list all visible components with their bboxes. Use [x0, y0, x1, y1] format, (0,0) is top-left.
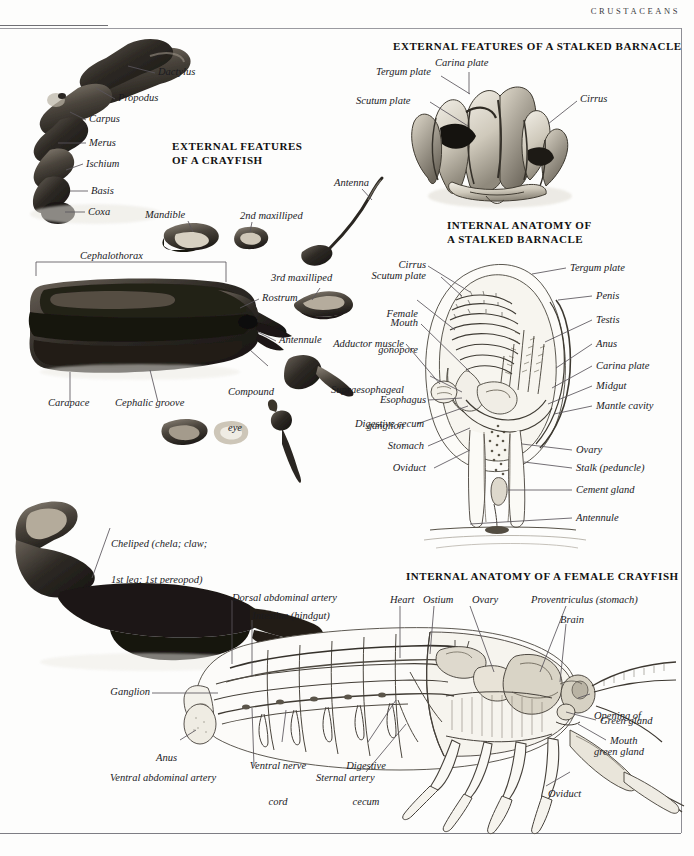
label-cephalothorax: Cephalothorax: [80, 250, 143, 262]
label-bi-stomach: Stomach: [350, 440, 424, 452]
label-ci-ventral-nerve-cord-line1: Ventral nerve: [243, 760, 313, 772]
label-dactylus: Dactylus: [158, 66, 195, 78]
label-merus: Merus: [89, 137, 116, 149]
label-ci-green-gland: Green gland: [600, 715, 652, 727]
label-bi-cement-gland: Cement gland: [576, 484, 635, 496]
label-ci-ventral-nerve-cord-line2: cord: [243, 796, 313, 808]
label-compound-eye-line2: eye: [228, 422, 274, 434]
label-ci-digestive-cecum: Digestive cecum: [334, 736, 398, 832]
label-cephalic-groove: Cephalic groove: [115, 397, 184, 409]
label-3rd-maxilliped: 3rd maxilliped: [271, 272, 332, 284]
label-bi-esophagus: Esophagus: [338, 394, 426, 406]
label-basis: Basis: [91, 185, 114, 197]
label-barnacle-scutum-plate: Scutum plate: [356, 95, 411, 107]
label-coxa: Coxa: [88, 206, 110, 218]
label-bi-digestive-cecum: Digestive cecum: [320, 418, 424, 430]
label-ci-opening-green-gland: Opening of green gland: [594, 686, 644, 782]
label-ci-ovary: Ovary: [472, 594, 498, 606]
label-ci-heart: Heart: [390, 594, 415, 606]
label-ischium: Ischium: [86, 158, 119, 170]
label-ci-opening-green-gland-line2: green gland: [594, 746, 644, 758]
label-bi-anus: Anus: [596, 338, 617, 350]
label-ci-anus: Anus: [156, 752, 177, 764]
label-bi-testis: Testis: [596, 314, 620, 326]
label-ci-ventral-abdominal-artery: Ventral abdominal artery: [110, 772, 216, 784]
label-bi-mantle-cavity: Mantle cavity: [596, 400, 653, 412]
label-bi-mouth: Mouth: [358, 317, 418, 329]
label-compound-eye: Compound eye: [228, 362, 274, 458]
label-bi-oviduct: Oviduct: [360, 462, 426, 474]
label-ci-ganglion: Ganglion: [92, 686, 150, 698]
label-bi-penis: Penis: [596, 290, 619, 302]
label-2nd-maxilliped: 2nd maxilliped: [240, 210, 303, 222]
label-ci-ostium: Ostium: [423, 594, 453, 606]
label-carpus: Carpus: [89, 113, 120, 125]
label-bi-stalk-peduncle: Stalk (peduncle): [576, 462, 645, 474]
label-antenna: Antenna: [334, 177, 369, 189]
label-ci-digestive-cecum-line1: Digestive: [334, 760, 398, 772]
label-bi-ovary: Ovary: [576, 444, 602, 456]
label-barnacle-cirrus: Cirrus: [580, 93, 607, 105]
label-mandible: Mandible: [145, 209, 185, 221]
label-ci-proventriculus: Proventriculus (stomach): [531, 594, 638, 606]
label-barnacle-carina-plate: Carina plate: [435, 57, 488, 69]
label-propodus: Propodus: [118, 92, 158, 104]
label-compound-eye-line1: Compound: [228, 386, 274, 398]
label-ci-intestine: Intestine (hindgut): [252, 610, 330, 622]
label-bi-scutum-plate: Scutum plate: [344, 270, 426, 282]
page-canvas: CRUSTACEANS: [0, 0, 694, 856]
label-ci-brain: Brain: [560, 614, 584, 626]
label-barnacle-tergum-plate: Tergum plate: [376, 66, 431, 78]
label-rostrum: Rostrum: [262, 292, 298, 304]
label-ci-digestive-cecum-line2: cecum: [334, 796, 398, 808]
label-ci-sternal-artery: Sternal artery: [316, 772, 375, 784]
label-bi-tergum-plate: Tergum plate: [570, 262, 625, 274]
label-ci-mouth: Mouth: [610, 735, 637, 747]
label-ci-ventral-nerve-cord: Ventral nerve cord: [243, 736, 313, 832]
label-ci-oviduct: Oviduct: [548, 788, 581, 800]
label-cheliped-line1: Cheliped (chela; claw;: [111, 538, 207, 550]
label-cheliped-line2: 1st leg; 1st pereopod): [111, 574, 207, 586]
label-bi-carina-plate: Carina plate: [596, 360, 649, 372]
label-cheliped: Cheliped (chela; claw; 1st leg; 1st pere…: [111, 514, 207, 610]
label-carapace: Carapace: [48, 397, 89, 409]
label-ci-dorsal-abdominal-artery: Dorsal abdominal artery: [232, 592, 337, 604]
label-bi-adductor-muscle: Adductor muscle: [310, 338, 404, 350]
label-bi-antennule: Antennule: [576, 512, 619, 524]
label-bi-midgut: Midgut: [596, 380, 626, 392]
